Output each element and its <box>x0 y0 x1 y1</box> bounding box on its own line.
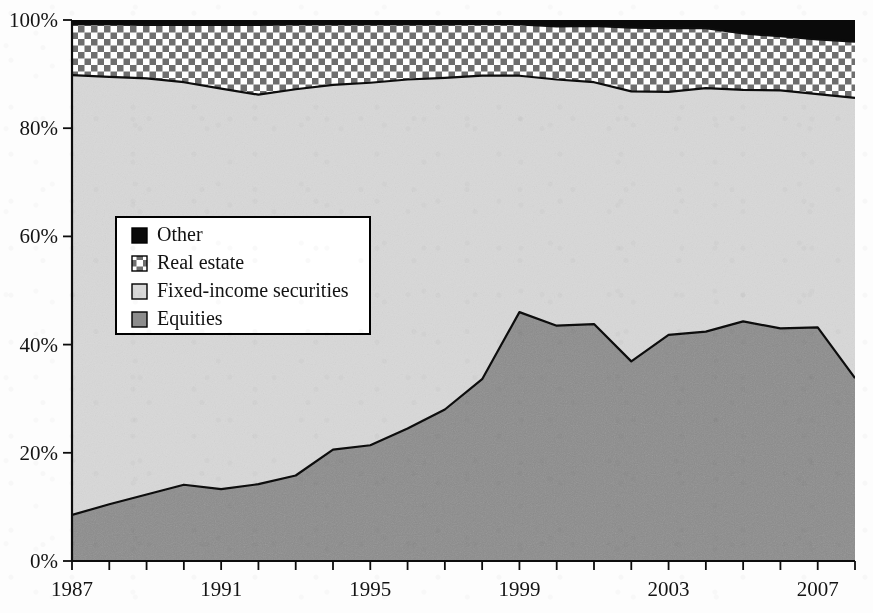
legend-item-fixed-income-securities[interactable]: Fixed-income securities <box>132 279 349 301</box>
stacked-area-chart-svg: 0%20%40%60%80%100% 198719911995199920032… <box>0 0 873 613</box>
legend-swatch-icon <box>132 228 147 243</box>
legend-swatch-icon <box>132 284 147 299</box>
x-axis-tick-labels: 198719911995199920032007 <box>51 577 839 601</box>
x-tick-label-1991: 1991 <box>200 577 242 601</box>
y-tick-label: 40% <box>20 333 59 357</box>
x-tick-label-2003: 2003 <box>648 577 690 601</box>
chart-figure: 0%20%40%60%80%100% 198719911995199920032… <box>0 0 873 613</box>
legend-label: Real estate <box>157 251 244 273</box>
x-tick-label-1995: 1995 <box>349 577 391 601</box>
y-tick-label: 60% <box>20 224 59 248</box>
x-axis-ticks <box>72 561 855 570</box>
x-tick-label-1987: 1987 <box>51 577 93 601</box>
x-tick-label-2007: 2007 <box>797 577 839 601</box>
y-tick-label: 80% <box>20 116 59 140</box>
legend-frame <box>116 217 370 334</box>
legend-label: Equities <box>157 307 223 330</box>
chart-legend[interactable]: OtherReal estateFixed-income securitiesE… <box>116 217 370 334</box>
y-tick-label: 100% <box>9 8 58 32</box>
x-tick-label-1999: 1999 <box>498 577 540 601</box>
legend-label: Other <box>157 223 203 245</box>
y-tick-label: 0% <box>30 549 58 573</box>
legend-label: Fixed-income securities <box>157 279 349 301</box>
legend-swatch-icon <box>132 312 147 327</box>
legend-swatch-icon <box>132 256 147 271</box>
y-tick-label: 20% <box>20 441 59 465</box>
y-axis-ticks <box>63 20 72 561</box>
y-axis-tick-labels: 0%20%40%60%80%100% <box>9 8 58 573</box>
